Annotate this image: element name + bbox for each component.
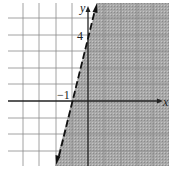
x-axis-label: x bbox=[163, 96, 168, 108]
x-intercept-label: −1 bbox=[57, 89, 70, 101]
line-arrow-top-icon bbox=[93, 3, 98, 13]
y-intercept-label: 4 bbox=[77, 30, 83, 42]
y-axis-label: y bbox=[80, 2, 85, 14]
coordinate-plane bbox=[0, 0, 169, 177]
y-axis-arrow-icon bbox=[86, 6, 91, 12]
